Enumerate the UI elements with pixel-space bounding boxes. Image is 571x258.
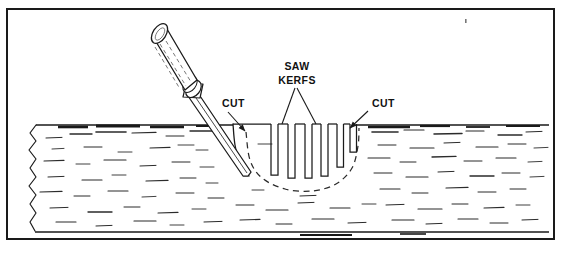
grain-mark xyxy=(526,131,542,132)
grain-mark xyxy=(204,221,222,222)
grain-mark xyxy=(434,133,462,134)
grain-mark xyxy=(158,212,178,213)
grain-mark xyxy=(298,202,314,203)
grain-mark xyxy=(522,219,538,220)
grain-mark xyxy=(150,147,170,148)
label-cut-left: CUT xyxy=(222,97,245,109)
grain-mark xyxy=(426,223,442,224)
grain-mark xyxy=(44,160,64,161)
label-saw-kerfs-line2: KERFS xyxy=(278,74,316,86)
grain-mark xyxy=(50,207,68,208)
grain-mark xyxy=(132,132,156,133)
grain-mark xyxy=(96,225,112,226)
grain-mark xyxy=(534,147,548,148)
grain-mark xyxy=(40,191,62,192)
figure-root: SAW KERFS CUT CUT xyxy=(0,0,571,258)
grain-mark xyxy=(142,196,156,197)
grain-mark xyxy=(444,142,460,143)
grain-mark xyxy=(528,161,542,162)
grain-mark xyxy=(386,204,404,205)
grain-mark xyxy=(484,207,504,208)
label-cut-right: CUT xyxy=(372,97,395,109)
grain-mark xyxy=(146,180,168,181)
grain-mark xyxy=(530,176,544,177)
grain-mark xyxy=(52,148,64,149)
paper-background xyxy=(0,0,571,258)
grain-mark xyxy=(348,222,366,223)
grain-mark xyxy=(438,171,454,172)
grain-mark xyxy=(432,156,456,157)
grain-mark xyxy=(300,195,316,196)
registration-speck xyxy=(465,19,467,23)
saw-kerfs-diagram: SAW KERFS CUT CUT xyxy=(0,0,571,258)
grain-mark xyxy=(140,165,156,166)
grain-mark xyxy=(446,187,468,188)
grain-mark xyxy=(240,219,260,220)
label-saw-kerfs-line1: SAW xyxy=(284,60,309,72)
grain-mark xyxy=(46,137,62,138)
grain-mark xyxy=(48,176,64,177)
